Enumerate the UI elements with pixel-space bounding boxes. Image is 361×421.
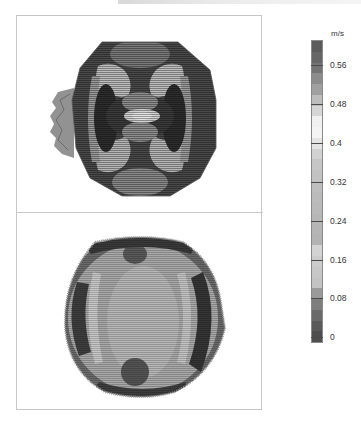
colorbar-band (312, 84, 322, 95)
colorbar-tick (311, 104, 323, 105)
colorbar-band (312, 41, 322, 52)
colorbar-tick (311, 65, 323, 66)
colorbar-tick (311, 182, 323, 183)
colorbar-tick-label: 0.08 (330, 293, 347, 303)
colorbar-unit-label: m/s (331, 29, 344, 38)
colorbar-band (312, 213, 322, 224)
colorbar-band (312, 278, 322, 289)
colorbar-tick (311, 143, 323, 144)
colorbar-tick-label: 0.24 (330, 216, 347, 226)
left-vector-fringe (50, 88, 74, 158)
colorbar-band (312, 202, 322, 213)
colorbar-band (312, 245, 322, 256)
bottom-velocity-plot (55, 232, 230, 404)
colorbar-tick (311, 337, 323, 338)
colorbar-tick-label: 0.32 (330, 177, 347, 187)
colorbar-band (312, 192, 322, 203)
colorbar-band (312, 52, 322, 63)
cropped-header-text (118, 0, 361, 4)
colorbar-band (312, 310, 322, 321)
colorbar-band (312, 170, 322, 181)
colorbar-band (312, 73, 322, 84)
colorbar-band (312, 127, 322, 138)
colorbar-band (312, 116, 322, 127)
colorbar-tick-label: 0 (330, 332, 335, 342)
colorbar-band (312, 321, 322, 332)
panel-divider (16, 212, 263, 213)
colorbar-tick-label: 0.48 (330, 99, 347, 109)
colorbar-band (312, 256, 322, 267)
colorbar-tick-label: 0.4 (330, 138, 342, 148)
colorbar-tick (311, 221, 323, 222)
colorbar-band (312, 159, 322, 170)
colorbar-band (312, 299, 322, 310)
colorbar-tick-label: 0.56 (330, 60, 347, 70)
colorbar-tick (311, 298, 323, 299)
colorbar-band (312, 149, 322, 160)
colorbar-band (312, 235, 322, 246)
colorbar-band (312, 267, 322, 278)
colorbar-band (312, 106, 322, 117)
top-velocity-plot (40, 30, 240, 205)
colorbar-tick (311, 260, 323, 261)
colorbar-band (312, 224, 322, 235)
colorbar-tick-label: 0.16 (330, 255, 347, 265)
